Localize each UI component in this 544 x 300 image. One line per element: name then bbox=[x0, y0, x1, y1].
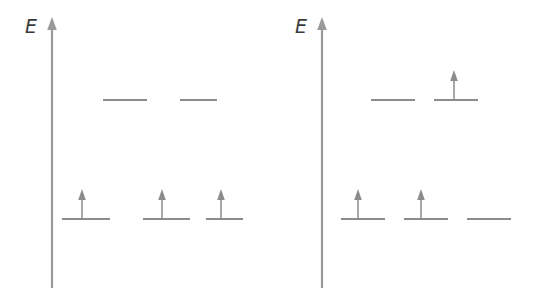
panel-right-configuration: E bbox=[272, 0, 544, 300]
level-right-lower-3[interactable] bbox=[272, 0, 544, 300]
energy-level-diagram: E bbox=[0, 0, 544, 300]
level-left-lower-3[interactable] bbox=[0, 0, 272, 300]
spin-up-arrow-icon[interactable] bbox=[217, 189, 225, 219]
panel-left-configuration: E bbox=[0, 0, 272, 300]
